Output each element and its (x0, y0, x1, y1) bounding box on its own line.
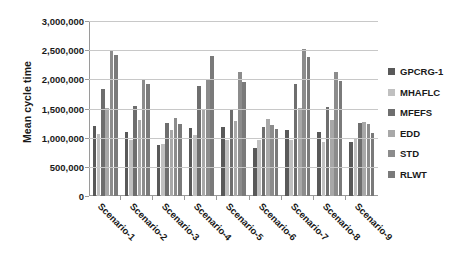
bar (266, 119, 270, 196)
bar (193, 135, 197, 196)
x-label-cell: Scenario-1 (89, 200, 121, 253)
bar (289, 140, 293, 196)
legend-swatch-icon (388, 109, 395, 116)
bar (225, 140, 229, 196)
chart-legend: GPCRG-1MHAFLCMFEFSEDDSTDRLWT (388, 66, 457, 190)
bar (242, 82, 246, 196)
x-label-cell: Scenario-7 (282, 200, 314, 253)
x-label-cell: Scenario-3 (153, 200, 185, 253)
bar (197, 86, 201, 196)
bar (285, 130, 289, 196)
bar (302, 49, 306, 196)
gridline (89, 79, 378, 80)
y-tick-label: 2,500,000 (0, 45, 84, 56)
bar (326, 107, 330, 196)
legend-swatch-icon (388, 150, 395, 157)
legend-label: STD (400, 148, 419, 159)
x-label-cell: Scenario-9 (346, 200, 378, 253)
legend-swatch-icon (388, 130, 395, 137)
legend-item[interactable]: RLWT (388, 169, 457, 180)
bar (234, 121, 238, 196)
x-label-cell: Scenario-5 (217, 200, 249, 253)
bar (371, 133, 375, 196)
x-label-cell: Scenario-6 (250, 200, 282, 253)
x-axis-tick-labels: Scenario-1Scenario-2Scenario-3Scenario-4… (89, 200, 378, 253)
gridline (89, 138, 378, 139)
legend-label: RLWT (400, 169, 427, 180)
x-label-cell: Scenario-8 (314, 200, 346, 253)
y-tick-label: 3,000,000 (0, 16, 84, 27)
bar (362, 122, 366, 196)
bar (129, 140, 133, 196)
bar (93, 126, 97, 196)
legend-swatch-icon (388, 89, 395, 96)
legend-label: MFEFS (400, 107, 432, 118)
gridline (89, 50, 378, 51)
x-tick-label: Scenario-9 (353, 201, 395, 243)
bar (298, 108, 302, 196)
legend-item[interactable]: GPCRG-1 (388, 66, 457, 77)
legend-item[interactable]: MFEFS (388, 107, 457, 118)
bar (210, 56, 214, 196)
bar (322, 142, 326, 196)
bar (110, 50, 114, 196)
bar (349, 142, 353, 196)
legend-swatch-icon (388, 68, 395, 75)
bar (202, 109, 206, 196)
y-axis-tick-labels: 3,000,0002,500,0002,000,0001,500,0001,00… (0, 0, 84, 253)
bar (157, 145, 161, 196)
bar (317, 132, 321, 196)
y-tick-label: 2,000,000 (0, 74, 84, 85)
bar (133, 106, 137, 196)
legend-swatch-icon (388, 171, 395, 178)
x-label-cell: Scenario-2 (121, 200, 153, 253)
bar (138, 120, 142, 196)
bar (114, 55, 118, 196)
legend-item[interactable]: MHAFLC (388, 87, 457, 98)
legend-item[interactable]: EDD (388, 128, 457, 139)
bar (165, 123, 169, 197)
bar-chart: Mean cycle time 3,000,0002,500,0002,000,… (0, 0, 457, 253)
plot-area (89, 21, 378, 196)
legend-item[interactable]: STD (388, 148, 457, 159)
y-tick-label: 500,000 (0, 161, 84, 172)
legend-label: EDD (400, 128, 420, 139)
bar (174, 118, 178, 196)
bar (334, 72, 338, 196)
legend-label: MHAFLC (400, 87, 440, 98)
gridline (89, 109, 378, 110)
y-tick-mark (85, 196, 89, 197)
gridline (89, 21, 378, 22)
bar (146, 84, 150, 196)
bar (275, 129, 279, 196)
y-tick-label: 0 (0, 191, 84, 202)
gridline (89, 167, 378, 168)
y-tick-label: 1,000,000 (0, 132, 84, 143)
bar (358, 123, 362, 196)
legend-label: GPCRG-1 (400, 66, 443, 77)
bar (170, 130, 174, 196)
bar (238, 72, 242, 196)
bar (97, 134, 101, 196)
bar (307, 57, 311, 196)
bar (257, 140, 261, 196)
bar (161, 144, 165, 197)
y-tick-label: 1,500,000 (0, 103, 84, 114)
bar (367, 124, 371, 196)
bar (125, 132, 129, 196)
bar (101, 89, 105, 196)
bar (230, 109, 234, 197)
bar (253, 148, 257, 196)
bar (294, 84, 298, 196)
x-label-cell: Scenario-4 (185, 200, 217, 253)
bar (178, 124, 182, 196)
bar (270, 125, 274, 196)
bar (330, 120, 334, 196)
bar (105, 108, 109, 196)
